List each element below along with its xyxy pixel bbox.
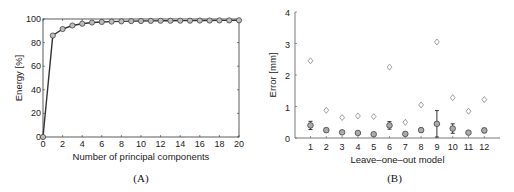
mean-error-marker — [482, 128, 488, 134]
max-error-marker — [403, 119, 408, 125]
x-tick-label: 8 — [419, 142, 424, 152]
max-error-marker — [324, 107, 329, 113]
x-tick-label: 7 — [403, 142, 408, 152]
y-tick-label: 0 — [285, 134, 290, 144]
x-tick-label: 6 — [387, 142, 392, 152]
max-error-marker — [356, 113, 361, 119]
x-tick-label: 12 — [479, 142, 489, 152]
max-error-marker — [419, 102, 424, 108]
y-tick-label: 2 — [285, 71, 290, 81]
chart-b-error: 01234123456789101112Leave–one–out modelE… — [0, 0, 514, 192]
max-error-marker — [371, 114, 376, 120]
mean-error-marker — [355, 130, 361, 136]
y-tick-label: 1 — [285, 103, 290, 113]
max-error-marker — [387, 64, 392, 70]
y-axis-label: Error [mm] — [267, 53, 278, 98]
max-error-marker — [435, 39, 440, 45]
mean-error-marker — [434, 121, 440, 127]
mean-error-marker — [466, 130, 472, 136]
mean-error-marker — [324, 127, 330, 133]
max-error-marker — [450, 95, 455, 101]
mean-error-marker — [387, 123, 393, 129]
max-error-marker — [466, 108, 471, 114]
mean-error-marker — [308, 123, 314, 129]
x-tick-label: 10 — [448, 142, 458, 152]
x-tick-label: 11 — [464, 142, 473, 152]
x-tick-label: 4 — [355, 142, 360, 152]
mean-error-marker — [403, 131, 409, 137]
panel-label-b: (B) — [387, 172, 402, 185]
y-tick-label: 4 — [285, 8, 290, 18]
y-tick-label: 3 — [285, 40, 290, 50]
x-tick-label: 5 — [371, 142, 376, 152]
x-tick-label: 1 — [308, 142, 313, 152]
x-tick-label: 2 — [324, 142, 329, 152]
x-tick-label: 3 — [340, 142, 345, 152]
mean-error-marker — [371, 131, 377, 137]
mean-error-marker — [339, 130, 345, 136]
x-axis-label: Leave–one–out model — [350, 154, 444, 165]
max-error-marker — [482, 97, 487, 103]
mean-error-marker — [418, 127, 424, 133]
max-error-marker — [308, 58, 313, 64]
max-error-marker — [340, 115, 345, 121]
x-tick-label: 9 — [434, 142, 439, 152]
mean-error-marker — [450, 126, 456, 132]
